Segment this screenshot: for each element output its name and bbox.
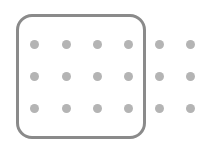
grid-dot — [93, 40, 102, 49]
grid-dot — [186, 40, 195, 49]
grid-dot — [124, 72, 133, 81]
grid-dot — [93, 104, 102, 113]
grid-dot — [30, 40, 39, 49]
grid-dot — [155, 40, 164, 49]
grid-dot — [186, 72, 195, 81]
grid-dot — [30, 72, 39, 81]
grid-dot — [124, 104, 133, 113]
grid-dot — [155, 104, 164, 113]
grid-dot — [30, 104, 39, 113]
grid-dot — [62, 40, 71, 49]
grid-dot — [62, 104, 71, 113]
grid-dot — [124, 40, 133, 49]
grid-dot — [93, 72, 102, 81]
grid-dot — [155, 72, 164, 81]
grid-dot — [62, 72, 71, 81]
grid-dot — [186, 104, 195, 113]
